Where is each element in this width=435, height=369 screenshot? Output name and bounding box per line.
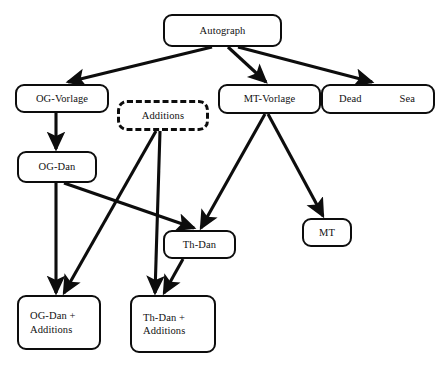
node-og-dan-additions[interactable]: OG-Dan + Additions	[17, 295, 101, 350]
node-th-dan-label: Th-Dan	[183, 238, 216, 251]
node-dead-sea[interactable]: Dead Sea	[321, 84, 435, 114]
node-additions-label: Additions	[142, 109, 184, 122]
node-autograph-label: Autograph	[200, 24, 246, 37]
node-th-dan-additions-label: Th-Dan + Additions	[143, 311, 185, 337]
edge-mt-vorlage-to-mt	[268, 114, 323, 216]
node-og-dan-label: OG-Dan	[39, 160, 76, 173]
stemma-diagram: Autograph OG-Vorlage Additions MT-Vorlag…	[0, 0, 435, 369]
edge-autograph-to-og-vorlage	[68, 47, 212, 82]
node-autograph[interactable]: Autograph	[163, 14, 282, 47]
node-mt-vorlage[interactable]: MT-Vorlage	[218, 84, 321, 114]
edge-og-dan-to-th-dan	[64, 183, 194, 228]
edge-th-dan-to-th-dan-add	[164, 259, 183, 293]
node-mt[interactable]: MT	[302, 218, 352, 247]
node-th-dan[interactable]: Th-Dan	[163, 230, 236, 259]
node-th-dan-additions[interactable]: Th-Dan + Additions	[130, 295, 216, 353]
node-mt-label: MT	[319, 226, 335, 239]
node-additions[interactable]: Additions	[117, 100, 209, 131]
node-og-dan[interactable]: OG-Dan	[17, 151, 97, 183]
edge-mt-vorlage-to-th-dan	[201, 114, 265, 228]
node-dead-sea-label-primary: Dead	[339, 92, 362, 105]
node-og-dan-additions-label: OG-Dan + Additions	[30, 309, 76, 335]
node-mt-vorlage-label: MT-Vorlage	[244, 92, 296, 105]
node-dead-sea-label-secondary: Sea	[400, 92, 415, 105]
edge-additions-to-th-dan-add	[155, 131, 160, 293]
node-og-vorlage-label: OG-Vorlage	[36, 92, 88, 105]
node-og-vorlage[interactable]: OG-Vorlage	[15, 84, 109, 113]
